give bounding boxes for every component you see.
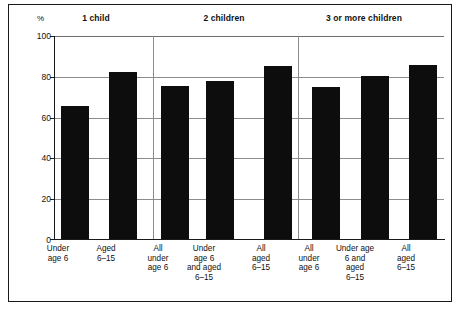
bar-3-or-more-children-all-aged-6-15 xyxy=(409,65,437,239)
x-label-under-age-6-and-aged-6-15-2children: Under age 6 and aged 6–15 xyxy=(175,244,233,282)
y-tick-100: 100 xyxy=(25,32,51,41)
y-tick-80: 80 xyxy=(25,73,51,82)
bar-2-children-all-aged-6-15 xyxy=(264,66,292,239)
y-tick-60: 60 xyxy=(25,114,51,123)
y-tick-40: 40 xyxy=(25,154,51,163)
x-label-line: aged xyxy=(236,254,286,264)
x-label-line: Aged xyxy=(81,244,131,254)
x-label-line: All xyxy=(381,244,431,254)
x-label-line: 6–15 xyxy=(175,273,233,283)
x-label-line: 6–15 xyxy=(81,254,131,264)
x-label-line: and aged xyxy=(175,263,233,273)
group-header-1-child: 1 child xyxy=(46,13,146,23)
x-label-line: Under age xyxy=(326,244,384,254)
plot-area xyxy=(54,36,444,239)
x-label-line: aged xyxy=(381,254,431,264)
x-label-line: 6–15 xyxy=(236,263,286,273)
x-label-under-age-6-1child: Under age 6 xyxy=(33,244,83,263)
y-tick-20: 20 xyxy=(25,195,51,204)
gridline-100 xyxy=(54,36,444,37)
chart-figure: % 1 child 2 children 3 or more children … xyxy=(8,4,452,302)
x-axis-line xyxy=(54,239,445,240)
x-label-all-aged-6-15-3ormore: All aged 6–15 xyxy=(381,244,431,273)
y-axis-labels: 100 80 60 40 20 0 xyxy=(21,36,51,240)
x-label-line: aged xyxy=(326,263,384,273)
bar-2-children-under-age-6-and-aged-6-15 xyxy=(206,81,234,239)
group-separator-2 xyxy=(298,36,299,240)
x-label-under-age-6-and-aged-6-15-3ormore: Under age 6 and aged 6–15 xyxy=(326,244,384,282)
bar-1-child-aged-6-15 xyxy=(109,72,137,239)
bar-3-or-more-children-all-under-age-6 xyxy=(312,87,340,239)
group-header-3-or-more-children: 3 or more children xyxy=(299,13,429,23)
x-label-aged-6-15-1child: Aged 6–15 xyxy=(81,244,131,263)
x-label-line: 6–15 xyxy=(381,263,431,273)
bar-1-child-under-age-6 xyxy=(61,106,89,239)
x-label-line: Under xyxy=(33,244,83,254)
y-axis-line xyxy=(54,36,55,240)
x-label-line: All xyxy=(236,244,286,254)
group-separator-1 xyxy=(153,36,154,240)
x-label-line: age 6 xyxy=(33,254,83,264)
x-label-line: age 6 xyxy=(175,254,233,264)
x-label-line: 6–15 xyxy=(326,273,384,283)
x-label-line: Under xyxy=(175,244,233,254)
x-label-all-aged-6-15-2children: All aged 6–15 xyxy=(236,244,286,273)
group-header-2-children: 2 children xyxy=(169,13,279,23)
x-label-line: 6 and xyxy=(326,254,384,264)
bar-3-or-more-children-under-age-6-and-aged-6-15 xyxy=(361,76,389,239)
bar-2-children-all-under-age-6 xyxy=(161,86,189,239)
y-axis-unit-label: % xyxy=(37,14,44,23)
